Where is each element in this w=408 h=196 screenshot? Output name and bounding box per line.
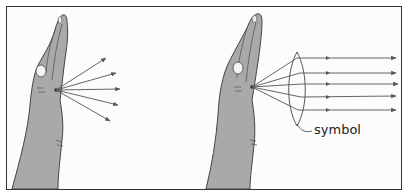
right-incident-rays: [252, 58, 302, 110]
right-hand-illustration: [206, 14, 262, 189]
convex-lens: [289, 52, 306, 126]
left-hand-illustration: [12, 15, 68, 189]
diagram-canvas: [0, 0, 408, 196]
label-leader-line: [297, 124, 312, 132]
lens-symbol-label: symbol: [314, 122, 361, 137]
left-diverging-rays: [56, 58, 120, 121]
right-parallel-rays: [297, 56, 398, 112]
